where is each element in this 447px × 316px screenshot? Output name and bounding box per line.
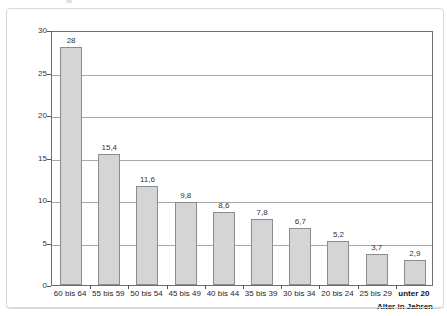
bar-slot: 7,8 (243, 32, 281, 285)
bar-slot: 2,9 (396, 32, 434, 285)
x-axis-tick-label: unter 20 (398, 290, 429, 298)
bar[interactable] (98, 154, 120, 285)
bar[interactable] (404, 260, 426, 285)
plot-area: 2815,411,69,88,67,86,75,23,72,9 (51, 31, 433, 286)
x-axis-tick-mark (128, 285, 129, 289)
x-axis-tick-mark (281, 285, 282, 289)
bar[interactable] (366, 254, 388, 285)
y-axis-tick-label: 0 (13, 282, 47, 290)
x-axis-tick-label: 25 bis 29 (359, 290, 391, 298)
x-axis-tick-label: 60 bis 64 (54, 290, 86, 298)
bar-value-label: 2,9 (409, 250, 420, 258)
y-axis-tick-label: 30 (13, 27, 47, 35)
x-axis-tick-label: 30 bis 34 (283, 290, 315, 298)
bar[interactable] (327, 241, 349, 285)
y-axis-tick-labels: 051015202530 (13, 31, 47, 286)
bar[interactable] (213, 212, 235, 285)
y-axis-tick-label: 25 (13, 70, 47, 78)
bar-slot: 3,7 (358, 32, 396, 285)
x-axis-tick-label: 35 bis 39 (245, 290, 277, 298)
x-axis-tick-mark (243, 285, 244, 289)
y-axis-tick-label: 20 (13, 112, 47, 120)
bar[interactable] (289, 228, 311, 285)
bar-slot: 28 (52, 32, 90, 285)
bar-value-label: 8,6 (218, 202, 229, 210)
cropped-text-artifact (66, 0, 72, 3)
bar-value-label: 7,8 (257, 209, 268, 217)
bar-value-label: 15,4 (101, 144, 117, 152)
bar-value-label: 28 (67, 37, 76, 45)
x-axis-tick-label: 55 bis 59 (92, 290, 124, 298)
bar-value-label: 11,6 (140, 176, 155, 184)
bar-slot: 9,8 (167, 32, 205, 285)
bar-slot: 8,6 (205, 32, 243, 285)
y-axis-tick-mark (47, 286, 51, 287)
bar[interactable] (136, 186, 158, 285)
x-axis-tick-mark (167, 285, 168, 289)
bar-value-label: 3,7 (371, 244, 382, 252)
bar-value-label: 6,7 (295, 218, 306, 226)
bottom-divider (6, 307, 444, 308)
bar-value-label: 9,8 (180, 192, 191, 200)
x-axis-tick-labels: 60 bis 6455 bis 5950 bis 5445 bis 4940 b… (51, 290, 433, 302)
x-axis-tick-mark (396, 285, 397, 289)
bar-value-label: 5,2 (333, 231, 344, 239)
y-axis-tick-label: 5 (13, 240, 47, 248)
bar-slot: 5,2 (319, 32, 357, 285)
bar-slot: 11,6 (128, 32, 166, 285)
x-axis-tick-mark (319, 285, 320, 289)
figure-frame: Dauer in Monaten 051015202530 2815,411,6… (6, 8, 444, 309)
bar-slot: 6,7 (281, 32, 319, 285)
y-axis-tick-label: 10 (13, 197, 47, 205)
bar[interactable] (175, 202, 197, 285)
chart-screenshot: Dauer in Monaten 051015202530 2815,411,6… (0, 0, 447, 316)
x-axis-tick-label: 45 bis 49 (168, 290, 200, 298)
x-axis-tick-label: 50 bis 54 (130, 290, 162, 298)
bar[interactable] (60, 47, 82, 285)
bar[interactable] (251, 219, 273, 285)
x-axis-tick-mark (358, 285, 359, 289)
bars-layer: 2815,411,69,88,67,86,75,23,72,9 (52, 32, 432, 285)
y-axis-tick-label: 15 (13, 155, 47, 163)
x-axis-tick-label: 40 bis 44 (207, 290, 239, 298)
bar-slot: 15,4 (90, 32, 128, 285)
x-axis-tick-mark (90, 285, 91, 289)
x-axis-tick-label: 20 bis 24 (321, 290, 353, 298)
x-axis-tick-mark (205, 285, 206, 289)
